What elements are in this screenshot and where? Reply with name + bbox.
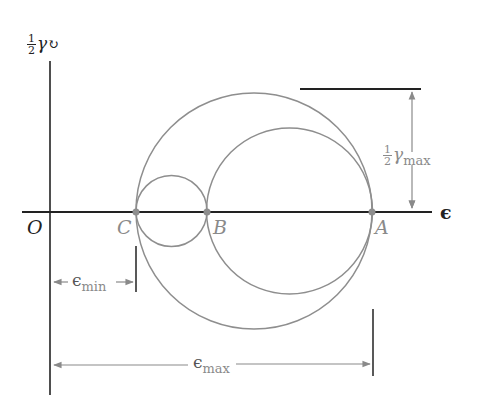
rotation-arrow-icon: ↻ — [47, 36, 59, 52]
large-circle — [136, 93, 372, 329]
medium-circle — [207, 128, 373, 294]
point-c — [133, 209, 140, 216]
small-circle — [136, 176, 207, 247]
y-axis-fraction: 1 2 — [27, 33, 36, 56]
origin-label: O — [27, 218, 43, 237]
mohr-circle-diagram: 1 2 γ↻ ϵ O C B A 1 2 γmax ϵmin ϵmax — [0, 0, 477, 410]
gamma-max-label: 1 2 γmax — [383, 144, 431, 167]
point-a — [369, 209, 376, 216]
y-axis-label: 1 2 γ↻ — [27, 33, 59, 56]
point-a-label: A — [375, 218, 389, 237]
eps-max-label: ϵmax — [193, 354, 230, 371]
point-b-label: B — [213, 218, 227, 237]
eps-min-label: ϵmin — [72, 272, 106, 289]
x-axis-label: ϵ — [440, 203, 452, 222]
point-c-label: C — [117, 218, 132, 237]
diagram-graphics — [0, 0, 477, 410]
point-b — [204, 209, 211, 216]
